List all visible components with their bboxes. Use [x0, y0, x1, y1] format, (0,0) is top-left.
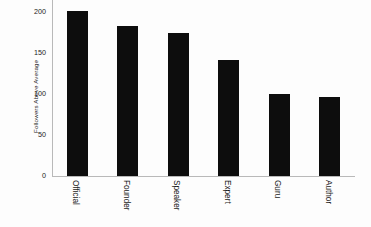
y-tick-label: 150 [14, 49, 46, 57]
bar [168, 33, 189, 176]
bar [67, 11, 88, 176]
y-axis-tick-labels: 050100150200 [14, 0, 46, 227]
bar [218, 60, 239, 176]
y-tick-label: 0 [14, 172, 46, 180]
bar [319, 97, 340, 176]
bar-chart: Followers Above Average 050100150200 Off… [0, 0, 371, 227]
x-axis-tick-labels: OfficialFounderSpeakerExpertGuruAuthor [52, 176, 355, 227]
plot-area [52, 0, 355, 176]
x-tick-label: Founder [121, 180, 132, 227]
y-tick-label: 100 [14, 90, 46, 98]
x-tick-label: Speaker [171, 180, 182, 227]
bar [269, 94, 290, 176]
y-tick-label: 200 [14, 8, 46, 16]
x-tick-label: Expert [222, 180, 233, 227]
x-tick-label: Guru [272, 180, 283, 227]
y-tick-label: 50 [14, 131, 46, 139]
x-tick-label: Author [323, 180, 334, 227]
x-tick-label: Official [70, 180, 81, 227]
bar [117, 26, 138, 176]
